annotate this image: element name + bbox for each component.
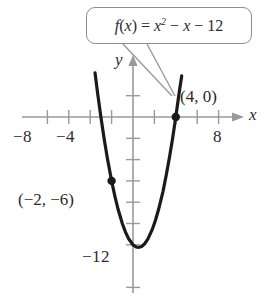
point-marker-neg2-neg6 bbox=[107, 177, 115, 185]
y-tick-label-neg12: −12 bbox=[82, 248, 110, 265]
y-axis-label: y bbox=[115, 51, 123, 68]
point-marker-4-0 bbox=[172, 113, 180, 121]
x-axis-arrowhead bbox=[232, 112, 244, 121]
x-tick-label-neg4: −4 bbox=[56, 128, 75, 145]
graph-canvas bbox=[0, 0, 268, 308]
x-axis-label: x bbox=[249, 106, 257, 123]
x-tick-label-neg8: −8 bbox=[13, 128, 32, 145]
x-tick-label-8: 8 bbox=[213, 128, 222, 145]
function-equation-callout: f(x) = x2 − x − 12 bbox=[86, 7, 252, 44]
point-label-4-0: (4, 0) bbox=[180, 88, 217, 105]
y-axis-arrowhead bbox=[128, 55, 137, 66]
point-label-neg2-neg6: (−2, −6) bbox=[18, 191, 74, 208]
parabola-figure: f(x) = x2 − x − 12 y x −8 −4 8 −12 (4, 0… bbox=[0, 0, 268, 308]
function-equation-text: f(x) = x2 − x − 12 bbox=[115, 16, 224, 35]
callout-leader-lines bbox=[123, 44, 175, 96]
